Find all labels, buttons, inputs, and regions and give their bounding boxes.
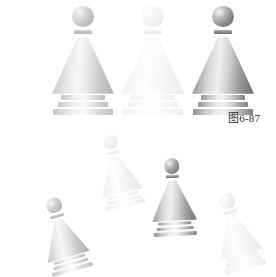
pawn-cone bbox=[192, 37, 254, 94]
pawn-base-plate bbox=[58, 102, 109, 107]
pawn-base-plate bbox=[123, 109, 183, 115]
pawn-base-plate bbox=[128, 102, 179, 107]
chess-pawn-icon bbox=[192, 6, 254, 104]
pawn-head bbox=[45, 196, 64, 215]
pawn-head bbox=[102, 134, 119, 151]
chess-pawn-icon bbox=[52, 6, 114, 104]
pawn-cone bbox=[150, 179, 197, 222]
chess-pawn-icon bbox=[31, 192, 92, 269]
chess-pawn-icon bbox=[149, 157, 198, 229]
figure-caption: 图6-87 bbox=[228, 113, 260, 124]
pawn-head bbox=[164, 158, 180, 174]
pawn-collar bbox=[166, 175, 180, 179]
pawn-base-plate bbox=[131, 95, 176, 100]
pawn-base-plate bbox=[61, 95, 106, 100]
pawn-cone bbox=[122, 37, 184, 94]
pawn-head bbox=[212, 6, 233, 27]
pawn-base-plate bbox=[159, 221, 192, 226]
pawn-collar bbox=[224, 208, 238, 215]
pawn-collar bbox=[50, 212, 64, 219]
pawn-base-plate bbox=[198, 102, 249, 107]
pawn-base-plate bbox=[201, 95, 246, 100]
pawn-head bbox=[72, 6, 93, 27]
pawn-collar bbox=[107, 150, 120, 156]
pawn-collar bbox=[214, 30, 233, 35]
pawn-cone bbox=[52, 37, 114, 94]
pawn-collar bbox=[74, 30, 93, 35]
chess-pawn-icon bbox=[204, 188, 265, 267]
pawn-base-plate bbox=[153, 231, 197, 238]
chess-pawn-icon bbox=[122, 6, 184, 104]
pawn-base-plate bbox=[53, 109, 113, 115]
pawn-collar bbox=[144, 30, 163, 35]
pawn-head bbox=[142, 6, 163, 27]
pawn-head bbox=[218, 192, 237, 211]
chess-pawn-icon bbox=[89, 131, 145, 205]
